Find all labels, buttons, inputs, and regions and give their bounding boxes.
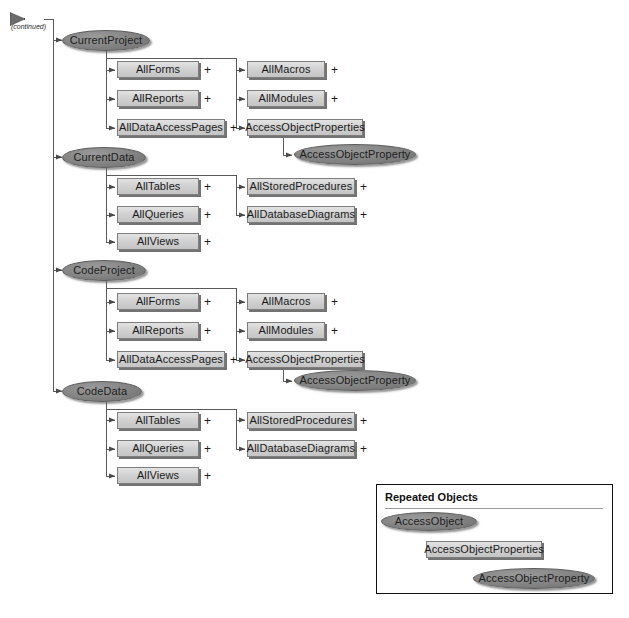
expand-plus-icon[interactable]: + xyxy=(204,181,211,193)
expand-plus-icon[interactable]: + xyxy=(204,236,211,248)
node-currentproject-alldataaccesspages[interactable]: AllDataAccessPages xyxy=(117,119,225,136)
expand-plus-icon[interactable]: + xyxy=(230,122,237,134)
node-codedata-allstoredprocedures[interactable]: AllStoredProcedures xyxy=(247,412,355,429)
node-codeproject-alldataaccesspages[interactable]: AllDataAccessPages xyxy=(117,351,225,368)
node-currentdata-alltables[interactable]: AllTables xyxy=(117,178,199,195)
node-currentdata[interactable]: CurrentData xyxy=(62,147,146,168)
legend-divider xyxy=(385,508,603,509)
node-codedata[interactable]: CodeData xyxy=(62,381,142,402)
node-currentproject-allmacros[interactable]: AllMacros xyxy=(247,61,325,78)
node-codeproject-allforms[interactable]: AllForms xyxy=(117,293,199,310)
node-currentproject[interactable]: CurrentProject xyxy=(62,30,150,51)
node-codeproject-accessobjectproperty[interactable]: AccessObjectProperty xyxy=(294,370,416,391)
node-currentproject-accessobjectproperty[interactable]: AccessObjectProperty xyxy=(294,144,416,165)
node-codeproject-allmacros[interactable]: AllMacros xyxy=(247,293,325,310)
node-codeproject-accessobjectproperties[interactable]: AccessObjectProperties xyxy=(247,351,363,368)
node-codedata-alldatabasediagrams[interactable]: AllDatabaseDiagrams xyxy=(247,440,355,457)
node-codedata-allqueries[interactable]: AllQueries xyxy=(117,440,199,457)
node-codedata-allviews[interactable]: AllViews xyxy=(117,467,199,484)
expand-plus-icon[interactable]: + xyxy=(204,415,211,427)
node-codeproject-allmodules[interactable]: AllModules xyxy=(247,322,325,339)
expand-plus-icon[interactable]: + xyxy=(331,325,338,337)
expand-plus-icon[interactable]: + xyxy=(204,209,211,221)
node-currentproject-accessobjectproperties[interactable]: AccessObjectProperties xyxy=(247,119,363,136)
node-currentdata-allqueries[interactable]: AllQueries xyxy=(117,206,199,223)
expand-plus-icon[interactable]: + xyxy=(331,296,338,308)
legend-node-accessobjectproperty[interactable]: AccessObjectProperty xyxy=(473,568,595,589)
expand-plus-icon[interactable]: + xyxy=(204,93,211,105)
expand-plus-icon[interactable]: + xyxy=(331,93,338,105)
node-currentproject-allforms[interactable]: AllForms xyxy=(117,61,199,78)
node-codeproject[interactable]: CodeProject xyxy=(62,260,146,281)
expand-plus-icon[interactable]: + xyxy=(230,354,237,366)
node-currentdata-allstoredprocedures[interactable]: AllStoredProcedures xyxy=(247,178,355,195)
expand-plus-icon[interactable]: + xyxy=(204,64,211,76)
node-currentproject-allmodules[interactable]: AllModules xyxy=(247,90,325,107)
expand-plus-icon[interactable]: + xyxy=(360,415,367,427)
node-currentproject-allreports[interactable]: AllReports xyxy=(117,90,199,107)
expand-plus-icon[interactable]: + xyxy=(204,443,211,455)
diagram-canvas: (continued) CurrentProject AllForms + Al… xyxy=(0,0,629,618)
expand-plus-icon[interactable]: + xyxy=(360,181,367,193)
expand-plus-icon[interactable]: + xyxy=(331,64,338,76)
legend-node-accessobject[interactable]: AccessObject xyxy=(381,512,477,531)
expand-plus-icon[interactable]: + xyxy=(204,325,211,337)
legend-title: Repeated Objects xyxy=(385,491,478,503)
expand-plus-icon[interactable]: + xyxy=(204,470,211,482)
expand-plus-icon[interactable]: + xyxy=(204,296,211,308)
node-currentdata-allviews[interactable]: AllViews xyxy=(117,233,199,250)
node-codeproject-allreports[interactable]: AllReports xyxy=(117,322,199,339)
node-codedata-alltables[interactable]: AllTables xyxy=(117,412,199,429)
expand-plus-icon[interactable]: + xyxy=(360,209,367,221)
expand-plus-icon[interactable]: + xyxy=(360,443,367,455)
node-currentdata-alldatabasediagrams[interactable]: AllDatabaseDiagrams xyxy=(247,206,355,223)
continued-label: (continued) xyxy=(11,23,46,30)
legend-node-accessobjectproperties[interactable]: AccessObjectProperties xyxy=(426,541,542,558)
